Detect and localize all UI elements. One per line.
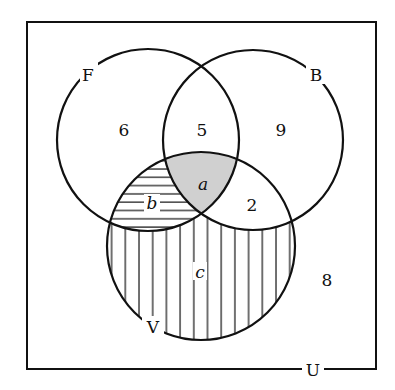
universe-label: U — [306, 360, 320, 380]
venn-diagram: F B V U 6 5 9 a b 2 c 8 — [0, 0, 395, 390]
region-f-only: 6 — [119, 120, 130, 140]
region-b-only: 9 — [276, 120, 287, 140]
region-b-v-only: 2 — [247, 195, 258, 215]
set-b-label: B — [310, 65, 323, 85]
region-outside: 8 — [322, 270, 333, 290]
region-c-hatch — [0, 0, 395, 390]
region-b-label: b — [147, 193, 158, 213]
set-f-label: F — [82, 65, 94, 85]
region-a-label: a — [198, 174, 208, 194]
region-c-label: c — [195, 262, 205, 282]
region-f-b-only: 5 — [197, 120, 208, 140]
set-v-label: V — [146, 317, 160, 337]
